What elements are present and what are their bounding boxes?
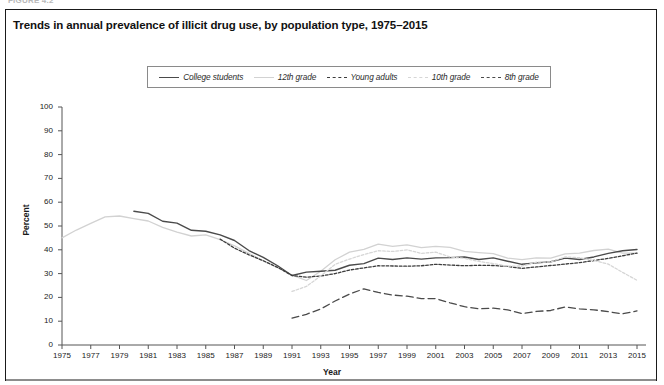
series-line-12th-grade [62,216,637,281]
series-line-10th-grade [292,250,637,292]
chart-canvas [0,0,664,385]
plot-area: Percent Year 0102030405060708090100 1975… [0,0,664,385]
figure-page: FIGURE 4.2 Trends in annual prevalence o… [0,0,664,385]
series-line-college-students [134,211,637,275]
series-line-8th-grade [292,289,637,318]
